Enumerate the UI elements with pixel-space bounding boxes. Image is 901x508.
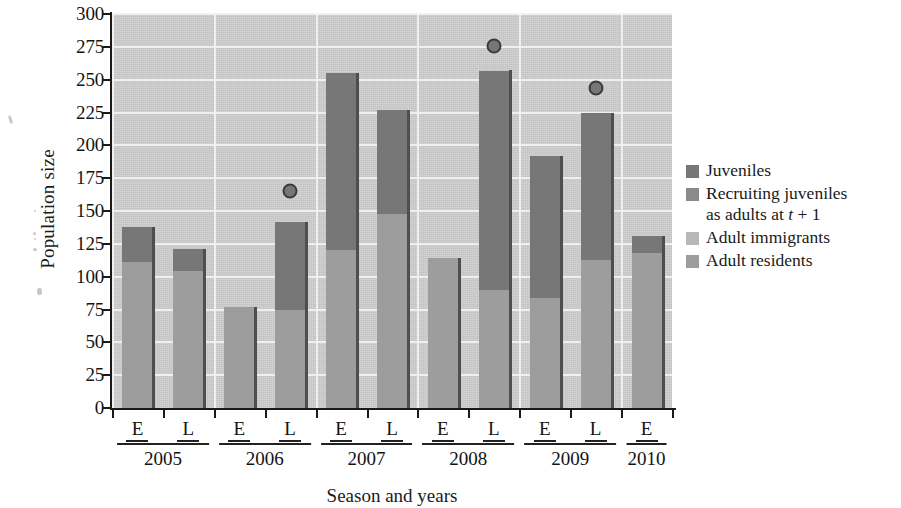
bar-segment-adult-residents	[530, 298, 560, 408]
data-point-marker	[486, 38, 501, 53]
season-label-e-10: E	[641, 418, 653, 440]
x-tick-mark	[214, 409, 216, 418]
season-label-l-7: L	[488, 418, 500, 440]
bar-shadow	[509, 70, 512, 408]
season-underline	[126, 440, 148, 442]
y-tick-mark	[102, 177, 111, 179]
y-tick-label: 225	[58, 102, 104, 124]
bar-segment-adult-residents	[224, 307, 254, 408]
bar-shadow	[662, 236, 665, 408]
bar	[377, 110, 407, 408]
bar-shadow	[203, 249, 206, 408]
season-underline	[432, 440, 454, 442]
legend-label: Recruiting juvenilesas adults at t + 1	[706, 183, 847, 225]
y-tick-label: 75	[58, 299, 104, 321]
bar	[479, 70, 509, 408]
y-tick-label: 50	[58, 331, 104, 353]
year-label: 2005	[117, 448, 209, 470]
legend-item: Adult immigrants	[686, 227, 898, 248]
bar-segment-adult-residents	[632, 253, 662, 408]
gridline-vertical	[112, 14, 114, 408]
bar-segment-juveniles	[479, 71, 509, 290]
year-label: 2007	[321, 448, 413, 470]
year-label: 2009	[524, 448, 616, 470]
bar-segment-adult-residents	[428, 258, 458, 408]
legend-swatch	[686, 232, 699, 245]
x-tick-mark	[367, 409, 369, 418]
bar-segment-juveniles	[275, 222, 305, 310]
bar	[173, 249, 203, 408]
bar-shadow	[458, 258, 461, 408]
legend-item: Recruiting juvenilesas adults at t + 1	[686, 183, 898, 225]
plot-area	[112, 14, 672, 408]
year-underline	[422, 443, 514, 445]
bar-segment-adult-residents	[275, 310, 305, 409]
data-point-marker	[283, 184, 298, 199]
y-axis-title: Population size	[37, 99, 59, 319]
x-tick-mark	[163, 409, 165, 418]
season-underline	[381, 440, 403, 442]
season-label-e-8: E	[539, 418, 551, 440]
bar-segment-adult-residents	[377, 214, 407, 408]
legend-swatch	[686, 165, 699, 178]
season-underline	[585, 440, 607, 442]
gridline-horizontal	[112, 13, 672, 15]
x-tick-mark	[417, 409, 419, 418]
season-underline	[534, 440, 556, 442]
gridline-vertical	[621, 14, 623, 408]
y-tick-mark	[102, 243, 111, 245]
gridline-vertical	[519, 14, 521, 408]
x-season-labels: ELELELELELE	[0, 418, 901, 444]
x-tick-mark	[621, 409, 623, 418]
season-label-e-0: E	[132, 418, 144, 440]
x-tick-mark	[519, 409, 521, 418]
x-tick-mark	[468, 409, 470, 418]
legend-swatch	[686, 255, 699, 268]
gridline-horizontal	[112, 46, 672, 48]
year-underline	[524, 443, 616, 445]
season-underline	[228, 440, 250, 442]
year-label: 2006	[219, 448, 311, 470]
chart-figure: Population size 025507510012515017520022…	[0, 0, 901, 508]
season-underline	[636, 440, 658, 442]
bar-segment-juveniles	[530, 156, 560, 298]
x-tick-mark	[316, 409, 318, 418]
gridline-vertical	[417, 14, 419, 408]
scan-artifact	[8, 115, 14, 124]
legend-label: Juveniles	[706, 160, 771, 181]
scan-artifact	[34, 210, 36, 212]
x-axis-line	[110, 408, 676, 410]
y-tick-mark	[102, 374, 111, 376]
bar-segment-juveniles	[632, 236, 662, 253]
season-underline	[330, 440, 352, 442]
bar-segment-adult-residents	[173, 271, 203, 408]
y-tick-label: 100	[58, 266, 104, 288]
bar-segment-adult-residents	[122, 262, 152, 408]
bar-shadow	[254, 307, 257, 408]
bar	[326, 73, 356, 408]
x-year-labels: 200520062007200820092010	[0, 443, 901, 483]
y-tick-label: 150	[58, 200, 104, 222]
legend-item: Adult residents	[686, 250, 898, 271]
y-tick-label: 300	[58, 3, 104, 25]
year-underline	[117, 443, 209, 445]
season-label-l-9: L	[590, 418, 602, 440]
x-tick-mark	[672, 409, 674, 418]
data-point-marker	[588, 80, 603, 95]
y-tick-mark	[102, 13, 111, 15]
season-label-e-2: E	[233, 418, 245, 440]
bar-segment-adult-residents	[581, 260, 611, 408]
y-tick-mark	[102, 309, 111, 311]
season-label-l-5: L	[386, 418, 398, 440]
gridline-vertical	[214, 14, 216, 408]
bar	[122, 227, 152, 408]
y-tick-mark	[102, 407, 111, 409]
y-tick-mark	[102, 210, 111, 212]
legend-label: Adult immigrants	[706, 227, 830, 248]
bar-shadow	[305, 222, 308, 408]
scan-artifact	[33, 232, 36, 235]
bar-shadow	[611, 113, 614, 409]
bar	[581, 113, 611, 409]
y-tick-mark	[102, 112, 111, 114]
y-tick-mark	[102, 144, 111, 146]
